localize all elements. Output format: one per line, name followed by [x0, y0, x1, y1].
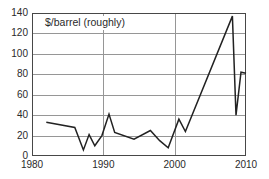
y-axis-tick-label: 60	[0, 89, 28, 101]
y-axis-tick-label: 140	[0, 7, 28, 19]
y-axis-tick-label: 120	[0, 27, 28, 39]
y-axis-tick-label: 100	[0, 48, 28, 60]
y-axis-tick-label: 20	[0, 130, 28, 142]
price-line	[46, 16, 246, 150]
x-axis-tick-label: 2000	[158, 159, 192, 171]
y-axis-tick-label: 80	[0, 68, 28, 80]
x-axis-tick-label: 1980	[15, 159, 49, 171]
x-axis-tick-label: 1990	[86, 159, 120, 171]
plot-frame	[33, 14, 246, 156]
chart-canvas	[0, 0, 269, 179]
chart-title: $/barrel (roughly)	[45, 16, 128, 30]
x-axis-tick-label: 2010	[229, 159, 263, 171]
oil-price-chart: $/barrel (roughly) 140120100806040200 19…	[0, 0, 269, 179]
y-axis-tick-label: 40	[0, 109, 28, 121]
